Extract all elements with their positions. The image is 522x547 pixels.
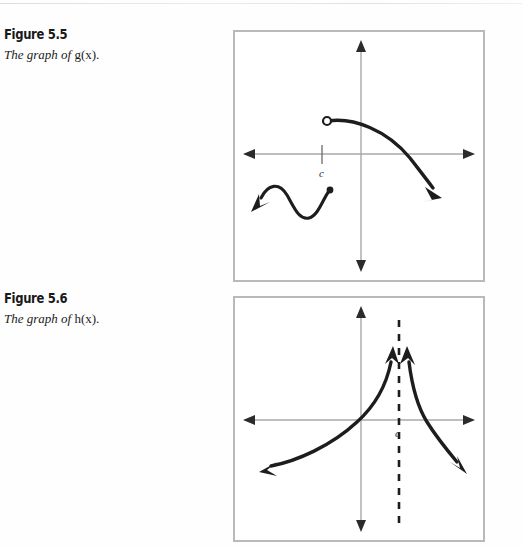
x-axis-arrow-right (463, 149, 475, 159)
figure-description-prefix-5-5: The graph of (4, 47, 74, 62)
curve-h-right-branch (409, 362, 457, 462)
figure-description-suffix-5-5: . (96, 47, 99, 62)
figure-label-5-5: Figure 5.5 (4, 27, 185, 43)
y-axis-arrow-up (356, 40, 366, 52)
open-circle-discontinuity (323, 117, 331, 125)
figure-description-prefix-5-6: The graph of (4, 311, 74, 326)
x-axis-arrow-left (243, 149, 255, 159)
curve-h-left-branch (271, 362, 391, 466)
closed-dot-endpoint (327, 187, 334, 194)
graph-g-of-x: c (235, 32, 483, 280)
y-axis-arrow-down (356, 260, 366, 272)
figure-caption-5-6: Figure 5.6 The graph of h(x). (4, 291, 214, 326)
figure-box-5-5: c (233, 30, 485, 282)
graph-h-of-x: c (235, 298, 483, 540)
y-axis-arrow-up (356, 306, 366, 318)
figure-description-suffix-5-6: . (96, 311, 99, 326)
scan-artifact-line (0, 3, 522, 4)
figure-description-function-5-6: h(x) (74, 311, 96, 326)
figure-caption-5-5: Figure 5.5 The graph of g(x). (4, 27, 214, 62)
axis-label-c: c (319, 167, 324, 179)
figure-description-5-6: The graph of h(x). (4, 311, 214, 327)
x-axis-arrow-left (243, 415, 255, 425)
y-axis-arrow-down (356, 520, 366, 532)
figure-description-5-5: The graph of g(x). (4, 47, 214, 63)
figure-label-5-6: Figure 5.6 (4, 291, 185, 307)
curve-g-right-arrowhead (421, 187, 442, 202)
document-page: Figure 5.5 The graph of g(x). c (0, 0, 522, 547)
curve-h-left-branch-arrow-down-left (259, 462, 277, 476)
curve-g-left-wave (261, 186, 329, 218)
asymptote-label-c: c (395, 427, 400, 439)
figure-box-5-6: c (233, 296, 485, 542)
x-axis-arrow-right (463, 415, 475, 425)
figure-description-function-5-5: g(x) (74, 47, 96, 62)
